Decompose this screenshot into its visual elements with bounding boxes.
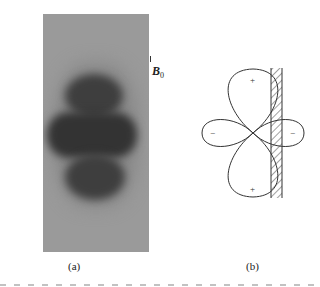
panel-b-label: (b): [246, 260, 259, 272]
sign-left: −: [210, 128, 215, 138]
sign-top: +: [250, 75, 255, 85]
dark-lobe-bottom: [65, 154, 125, 200]
sign-bottom: +: [250, 184, 255, 194]
hatched-wall: [271, 68, 282, 198]
field-label: B0: [152, 64, 164, 80]
panel-a-label: (a): [68, 260, 80, 272]
figure-caption-clipped: [0, 282, 320, 287]
micrograph-photo: [43, 14, 149, 252]
field-arrow-tick: [150, 56, 151, 62]
dark-band-middle: [47, 112, 137, 158]
lobe-diagram: + + − −: [190, 30, 320, 240]
sign-right: −: [290, 128, 295, 138]
